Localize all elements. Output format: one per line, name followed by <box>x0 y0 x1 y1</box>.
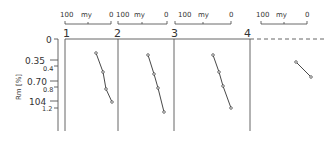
scale-left-label: 100 <box>178 11 191 19</box>
panel-4-line <box>296 62 311 77</box>
scale-mid-label: my <box>198 11 209 19</box>
y-axis <box>50 39 58 131</box>
series-lines <box>96 53 311 112</box>
scale-right-label: 0 <box>164 11 168 19</box>
scale-right-label: 0 <box>109 11 113 19</box>
panel-label-2: 2 <box>114 27 121 40</box>
y-tick-04: 0.4 <box>43 65 53 73</box>
panel-2-line <box>148 55 164 112</box>
scale-mid-label: my <box>276 11 287 19</box>
scale-right-label: 0 <box>229 11 233 19</box>
chart-figure: 100 my 0 100 my 0 100 my 0 100 my 0 1 2 … <box>0 0 324 141</box>
panel-label-1: 1 <box>63 27 70 40</box>
top-scale-labels: 100 my 0 100 my 0 100 my 0 100 my 0 <box>60 11 309 19</box>
scale-left-label: 100 <box>116 11 129 19</box>
series-points <box>95 52 313 114</box>
scale-right-label: 0 <box>305 11 309 19</box>
panel-label-4: 4 <box>244 27 251 40</box>
y-axis-label: Rm [%] <box>15 74 23 100</box>
scale-left-label: 100 <box>60 11 73 19</box>
panel-1-line <box>96 53 112 102</box>
y-minor-tick-labels: 0.4 0.8 1.2 <box>42 65 53 113</box>
panel-3-line <box>213 55 231 108</box>
y-tick-12: 1.2 <box>42 105 52 113</box>
scale-mid-label: my <box>81 11 92 19</box>
y-tick-08: 0.8 <box>43 86 53 94</box>
top-scales <box>65 21 307 24</box>
panel-frame <box>65 39 324 131</box>
panel-label-3: 3 <box>171 27 178 40</box>
scale-mid-label: my <box>134 11 145 19</box>
panel-labels: 1 2 3 4 <box>63 27 251 40</box>
y-tick-0: 0 <box>46 35 52 45</box>
scale-left-label: 100 <box>256 11 269 19</box>
